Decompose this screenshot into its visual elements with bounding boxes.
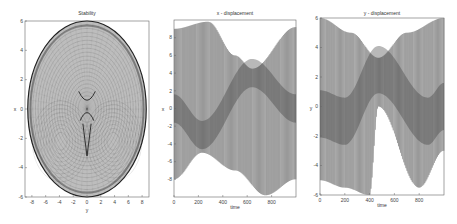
svg-text:4: 4 (20, 47, 23, 53)
y-displacement-xlabel: time (377, 202, 387, 208)
svg-text:6: 6 (315, 15, 318, 21)
y-displacement-title: y - displacement (364, 10, 401, 16)
y-displacement-ylabel: y (310, 105, 313, 111)
svg-text:800: 800 (415, 197, 424, 203)
x-displacement-xlabel: time (230, 204, 240, 210)
stability-xlabel: y (86, 207, 89, 213)
svg-text:-4: -4 (19, 164, 24, 170)
svg-text:400: 400 (365, 197, 374, 203)
y-displacement-plot: y - displacement 6420-2-4-6 020040060080… (300, 0, 457, 224)
svg-text:0: 0 (20, 106, 23, 112)
svg-text:6: 6 (169, 52, 172, 58)
svg-text:0: 0 (315, 103, 318, 109)
stability-ylabel: x (14, 106, 17, 112)
svg-text:-4: -4 (314, 162, 319, 168)
x-displacement-svg: x - displacement 86420-2-4-6-8 020040060… (150, 0, 305, 224)
svg-text:-2: -2 (314, 133, 319, 139)
y-displacement-svg: y - displacement 6420-2-4-6 020040060080… (300, 0, 457, 224)
svg-text:0: 0 (319, 197, 322, 203)
svg-text:800: 800 (267, 199, 276, 205)
svg-text:-8: -8 (30, 199, 35, 205)
svg-text:6: 6 (127, 199, 130, 205)
svg-text:2: 2 (20, 76, 23, 82)
svg-text:8: 8 (141, 199, 144, 205)
svg-text:4: 4 (113, 199, 116, 205)
svg-text:-4: -4 (168, 141, 173, 147)
svg-text:200: 200 (341, 197, 350, 203)
svg-text:600: 600 (390, 197, 399, 203)
stability-plot: Stability 6420-2-4-6 -8-6-4-202468 y x (0, 0, 155, 224)
svg-text:0: 0 (173, 199, 176, 205)
x-displacement-title: x - displacement (217, 10, 254, 16)
svg-text:-6: -6 (168, 158, 173, 164)
x-displacement-ylabel: x (162, 106, 165, 112)
svg-text:0: 0 (169, 105, 172, 111)
svg-text:-6: -6 (43, 199, 48, 205)
svg-text:-2: -2 (71, 199, 76, 205)
svg-text:-2: -2 (19, 135, 24, 141)
svg-text:2: 2 (169, 88, 172, 94)
svg-text:-4: -4 (57, 199, 62, 205)
svg-text:6: 6 (20, 18, 23, 24)
x-displacement-plot: x - displacement 86420-2-4-6-8 020040060… (150, 0, 305, 224)
stability-svg: Stability 6420-2-4-6 -8-6-4-202468 y x (0, 0, 155, 224)
svg-text:-6: -6 (19, 194, 24, 200)
svg-text:4: 4 (169, 70, 172, 76)
stability-title: Stability (78, 10, 96, 16)
svg-text:-8: -8 (168, 176, 173, 182)
svg-text:4: 4 (315, 44, 318, 50)
svg-text:200: 200 (194, 199, 203, 205)
svg-text:400: 400 (219, 199, 228, 205)
svg-text:0: 0 (86, 199, 89, 205)
svg-text:2: 2 (315, 74, 318, 80)
stability-mesh (28, 21, 146, 197)
svg-text:8: 8 (169, 34, 172, 40)
svg-text:-2: -2 (168, 123, 173, 129)
svg-text:2: 2 (99, 199, 102, 205)
svg-text:600: 600 (243, 199, 252, 205)
svg-text:-6: -6 (314, 192, 319, 198)
